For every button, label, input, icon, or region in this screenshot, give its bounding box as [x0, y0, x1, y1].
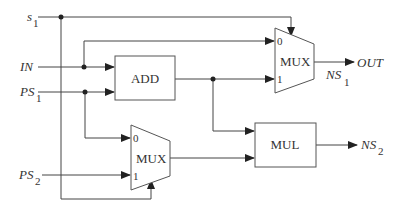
svg-text:1: 1	[33, 17, 39, 29]
s1-label: s 1	[27, 9, 39, 29]
junction-dot	[59, 15, 64, 20]
svg-text:1: 1	[36, 92, 42, 104]
add-block: ADD	[115, 56, 175, 100]
out-label: OUT	[357, 55, 384, 70]
mux-bottom-in1: 1	[133, 170, 139, 182]
datapath-diagram: ADD MUL 0 1 MUX 0 1 MUX s 1 IN PS 1 PS 2…	[0, 0, 405, 210]
svg-text:2: 2	[378, 145, 384, 157]
ns2-label: NS 2	[360, 137, 384, 157]
mux-bottom: 0 1 MUX	[131, 125, 170, 190]
svg-text:NS: NS	[325, 67, 342, 82]
mux-top-in1: 1	[277, 73, 283, 85]
junction-dot	[211, 77, 216, 82]
svg-text:s: s	[27, 9, 32, 24]
ps2-label: PS 2	[18, 167, 41, 187]
svg-text:PS: PS	[18, 167, 34, 182]
mul-block: MUL	[255, 123, 316, 167]
svg-text:2: 2	[35, 175, 41, 187]
svg-text:1: 1	[344, 76, 350, 88]
mux-top-label: MUX	[280, 54, 311, 69]
mux-top-in0: 0	[277, 35, 283, 47]
ps1-label: PS 1	[19, 84, 42, 104]
mux-bottom-in0: 0	[133, 132, 139, 144]
mul-label: MUL	[271, 137, 300, 152]
in-label: IN	[19, 59, 34, 74]
svg-text:NS: NS	[360, 137, 377, 152]
ns1-label: NS 1	[325, 67, 350, 88]
svg-text:PS: PS	[19, 84, 35, 99]
junction-dot	[83, 90, 88, 95]
mux-top: 0 1 MUX	[275, 28, 314, 93]
add-label: ADD	[131, 71, 159, 86]
junction-dot	[82, 65, 87, 70]
mux-bottom-label: MUX	[136, 151, 167, 166]
